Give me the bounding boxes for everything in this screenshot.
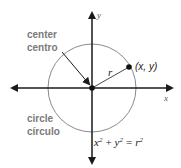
- center-label-en: center: [27, 29, 57, 40]
- center-dot: [89, 85, 95, 91]
- radius-label: r: [108, 66, 113, 78]
- point-label: (x, y): [135, 61, 157, 72]
- circle-equation-diagram: y x center centro circle círculo r (x, y…: [0, 0, 181, 168]
- circle-label-es: círculo: [27, 126, 60, 137]
- x-axis-label: x: [163, 93, 168, 103]
- center-pointer-arrow: [62, 52, 89, 84]
- equation: x2+y2=r2: [93, 136, 144, 148]
- center-label-es: centro: [27, 42, 58, 53]
- circle-label-en: circle: [27, 113, 54, 124]
- y-axis-label: y: [96, 10, 101, 20]
- point-dot: [126, 64, 132, 70]
